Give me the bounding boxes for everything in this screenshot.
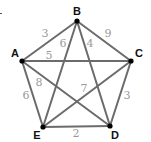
node-label-a: A [11, 47, 19, 59]
node-label-c: C [135, 47, 143, 59]
edge-weight-a-c: 5 [46, 49, 53, 62]
edge-a-d [22, 61, 110, 126]
node-b [74, 18, 79, 23]
node-label-b: B [73, 5, 81, 17]
edges-group [22, 21, 131, 127]
edge-weight-b-c: 9 [105, 27, 112, 40]
edge-weight-a-b: 3 [42, 27, 49, 40]
edge-weights-group: 3956487632 [23, 27, 131, 140]
edge-weight-a-d: 8 [36, 76, 43, 89]
edge-weight-b-d: 4 [87, 37, 94, 50]
graph-diagram: 3956487632 ABCDE [0, 0, 151, 142]
node-labels-group: ABCDE [11, 5, 143, 141]
node-d [107, 123, 112, 128]
edge-weight-c-d: 3 [124, 89, 131, 102]
graph-svg: 3956487632 ABCDE [0, 0, 151, 142]
node-label-e: E [33, 129, 40, 141]
nodes-group [19, 18, 133, 129]
node-e [40, 124, 45, 129]
stray-mark [0, 13, 2, 14]
node-c [128, 58, 133, 63]
edge-weight-e-d: 2 [73, 127, 80, 140]
node-label-d: D [111, 129, 119, 141]
edge-weight-c-e: 7 [81, 82, 88, 95]
edge-weight-a-e: 6 [23, 89, 30, 102]
edge-weight-b-e: 6 [60, 37, 67, 50]
node-a [19, 58, 24, 63]
